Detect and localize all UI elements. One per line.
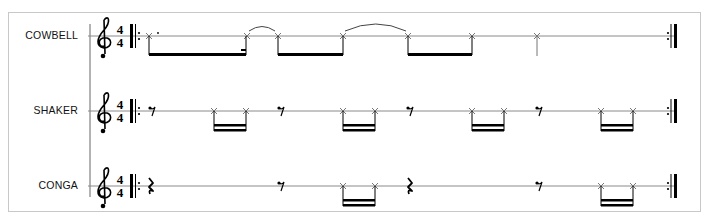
staff-shaker [88,93,677,133]
treble-clef-icon [98,18,111,58]
staff-cowbell [88,18,677,58]
time-signature [117,172,124,200]
treble-clef-icon [98,168,111,208]
time-signature [117,97,124,125]
staff-conga [88,168,677,208]
score-notation: 4 4 [0,0,710,224]
tie [345,24,406,31]
treble-clef-icon [98,93,111,133]
tie [249,27,275,32]
time-signature [117,22,124,50]
